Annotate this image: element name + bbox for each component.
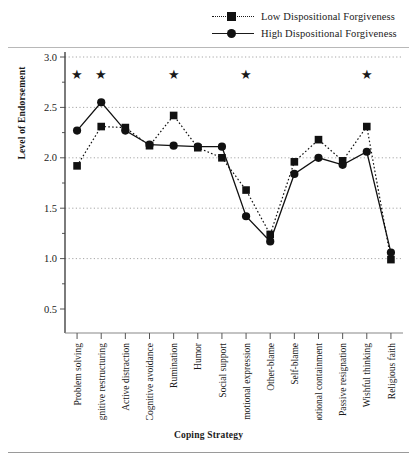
y-tick-label-0.5: 0.5 [44,304,57,315]
x-tick-label-2: Active distraction [121,343,131,411]
data-point-high-12 [363,148,371,156]
x-tick-label-7: Emotional expression [242,343,252,420]
x-axis-label: Coping Strategy [0,430,417,440]
x-tick-label-9: Self-blame [290,343,300,385]
data-point-low-7 [242,186,250,194]
data-point-high-6 [218,143,226,151]
significance-star-4: ★ [168,67,180,82]
x-tick-label-5: Humor [193,342,203,370]
significance-star-12: ★ [361,67,373,82]
data-point-high-8 [266,237,274,245]
y-tick-label-1.0: 1.0 [44,253,57,264]
data-point-low-13 [387,256,395,264]
data-point-high-2 [121,126,129,134]
significance-star-1: ★ [95,67,107,82]
x-tick-label-11: Passive resignation [338,343,348,416]
significance-star-7: ★ [240,67,252,82]
data-point-low-12 [363,123,371,131]
x-tick-label-4: Rumination [169,343,179,388]
x-tick-label-6: Social support [218,343,228,398]
data-point-high-9 [290,170,298,178]
x-tick-label-10: Emotional containment [314,343,324,420]
significance-star-0: ★ [71,67,83,82]
data-point-high-1 [97,98,105,106]
data-point-high-11 [339,161,347,169]
x-tick-label-3: Cognitive avoidance [145,343,155,420]
data-point-high-10 [314,154,322,162]
data-point-high-4 [170,142,178,150]
y-tick-label-2.0: 2.0 [44,152,57,163]
data-point-low-1 [97,123,105,131]
series-line-low [77,115,391,259]
data-point-high-0 [73,126,81,134]
data-point-high-13 [387,248,395,256]
y-tick-label-2.5: 2.5 [44,102,57,113]
figure-bottom-rule [8,452,409,453]
x-tick-label-13: Religious faith [387,343,397,399]
data-point-low-4 [170,112,178,120]
x-tick-label-8: Other-blame [266,343,276,391]
data-point-low-0 [73,162,81,170]
chart-figure: Low Dispositional Forgiveness High Dispo… [0,0,417,463]
y-tick-label-3.0: 3.0 [44,52,57,63]
data-point-low-10 [315,136,323,144]
chart-plot-area: 0.51.01.52.02.53.0Problem solvingCogniti… [0,0,417,420]
x-tick-label-12: Wishful thinking [362,343,372,408]
data-point-high-7 [242,212,250,220]
data-point-high-5 [194,143,202,151]
x-tick-label-1: Cognitive restructuring [97,343,107,420]
data-point-high-3 [145,141,153,149]
y-tick-label-1.5: 1.5 [44,203,57,214]
x-tick-label-0: Problem solving [73,343,83,406]
data-point-low-9 [291,158,299,166]
